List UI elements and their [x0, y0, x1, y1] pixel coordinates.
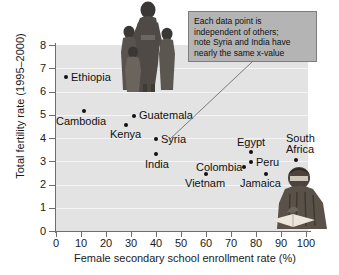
x-tick-label: 90: [269, 238, 293, 249]
y-tick-label: 0: [30, 226, 46, 237]
x-tick-label: 60: [194, 238, 218, 249]
data-label-india: India: [145, 159, 169, 170]
data-point-syria: [154, 137, 158, 141]
callout-line-1: Each data point is: [194, 16, 311, 27]
callout-line-3: note Syria and India have: [194, 37, 311, 48]
data-label-peru: Peru: [256, 157, 279, 168]
scatter-plot-figure: 8 7 6 5 4 3 2 1 0 0 10 20 30 40 50 60 70…: [0, 0, 339, 275]
data-label-ethiopia: Ethiopia: [71, 72, 111, 83]
data-label-cambodia: Cambodia: [56, 116, 106, 127]
data-label-colombia: Colombia: [196, 162, 242, 173]
y-axis-title: Total fertility rate (1995–2000): [14, 16, 26, 196]
x-tick-label: 20: [94, 238, 118, 249]
y-tick: [49, 68, 55, 69]
y-tick-label: 3: [30, 156, 46, 167]
y-tick-label: 5: [30, 109, 46, 120]
y-tick: [49, 185, 55, 186]
x-tick-label: 80: [244, 238, 268, 249]
x-tick-label: 0: [44, 238, 68, 249]
student-reading-photo: [263, 162, 339, 234]
callout-leader-line: [160, 58, 260, 144]
data-point-egypt: [249, 150, 253, 154]
x-tick-label: 70: [219, 238, 243, 249]
y-tick-label: 1: [30, 202, 46, 213]
y-tick: [49, 231, 55, 232]
x-tick-label: 30: [119, 238, 143, 249]
y-tick-label: 2: [30, 179, 46, 190]
data-label-south-africa-text: SouthAfrica: [286, 132, 315, 155]
data-label-vietnam: Vietnam: [185, 178, 225, 189]
y-tick: [49, 208, 55, 209]
data-label-kenya: Kenya: [110, 129, 141, 140]
callout-line-4: nearly the same x-value: [194, 48, 311, 59]
y-tick-label: 6: [30, 86, 46, 97]
y-tick: [49, 138, 55, 139]
data-label-south-africa: SouthAfrica: [286, 133, 315, 155]
y-tick: [49, 92, 55, 93]
annotation-callout: Each data point is independent of others…: [188, 11, 317, 62]
data-point-guatemala: [132, 114, 136, 118]
data-point-cambodia: [82, 109, 86, 113]
data-point-jamaica: [264, 172, 268, 176]
data-point-south-africa: [294, 158, 298, 162]
x-axis-line: [55, 231, 311, 232]
x-tick-label: 50: [169, 238, 193, 249]
x-tick-label: 40: [144, 238, 168, 249]
y-tick: [49, 115, 55, 116]
x-tick-label: 100: [294, 238, 318, 249]
x-tick-label: 10: [69, 238, 93, 249]
y-tick-label: 8: [30, 40, 46, 51]
y-axis-line: [55, 43, 56, 233]
data-label-jamaica: Jamaica: [240, 178, 281, 189]
y-tick: [49, 45, 55, 46]
x-axis-title: Female secondary school enrollment rate …: [40, 252, 330, 264]
y-tick-label: 4: [30, 133, 46, 144]
callout-line-2: independent of others;: [194, 27, 311, 38]
y-tick: [49, 161, 55, 162]
y-tick-label: 7: [30, 63, 46, 74]
